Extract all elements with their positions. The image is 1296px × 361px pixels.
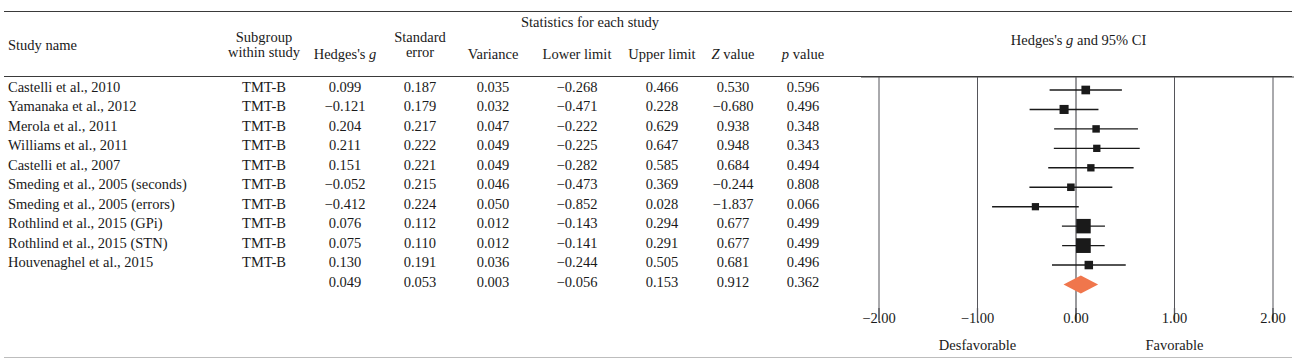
table-row-study-name: Rothlind et al., 2015 (STN) [8,235,168,252]
table-cell-hedges-g: 0.151 [329,157,362,174]
table-cell-hedges-g: 0.130 [329,254,362,271]
figure-bottom-rule [4,357,1292,358]
table-cell-hedges-g: −0.121 [325,98,366,115]
table-cell-upper-limit: 0.369 [646,176,679,193]
forest-plot-figure: Statistics for each study Hedges's g and… [0,0,1296,361]
effect-marker [1076,238,1091,253]
table-cell-z-value: −1.837 [713,196,754,213]
table-cell-variance: 0.036 [477,254,510,271]
table-cell-p-value: 0.596 [787,79,820,96]
table-cell-subgroup: TMT-B [242,137,286,154]
table-cell-variance: 0.049 [477,137,510,154]
table-cell-standard-err: 0.215 [404,176,437,193]
axis-tick-label: 0.00 [1063,310,1088,327]
table-cell-subgroup: TMT-B [242,196,286,213]
table-row-study-name: Williams et al., 2011 [8,137,128,154]
column-header-variance: Variance [468,47,519,62]
table-cell-z-value: 0.681 [717,254,750,271]
table-cell-variance: 0.047 [477,118,510,135]
table-cell-p-value: 0.494 [787,157,820,174]
table-cell-variance: 0.003 [477,274,510,291]
table-row-study-name: Smeding et al., 2005 (errors) [8,196,175,213]
table-cell-subgroup: TMT-B [242,98,286,115]
table-cell-upper-limit: 0.585 [646,157,679,174]
plot-title: Hedges's g and 95% CI [861,32,1296,49]
table-cell-standard-err: 0.217 [404,118,437,135]
table-row-study-name: Castelli et al., 2010 [8,79,120,96]
effect-marker [1076,219,1090,233]
table-cell-upper-limit: 0.629 [646,118,679,135]
effect-marker [1092,125,1099,132]
table-cell-variance: 0.046 [477,176,510,193]
axis-left-direction-label: Desfavorable [939,337,1016,354]
table-cell-subgroup: TMT-B [242,254,286,271]
table-cell-upper-limit: 0.291 [646,235,679,252]
table-row-study-name: Rothlind et al., 2015 (GPi) [8,215,163,232]
table-cell-p-value: 0.362 [787,274,820,291]
table-header-rule [4,76,1292,77]
table-cell-variance: 0.050 [477,196,510,213]
table-row-study-name: Castelli et al., 2007 [8,157,120,174]
table-cell-z-value: 0.684 [717,157,750,174]
table-cell-p-value: 0.499 [787,235,820,252]
table-cell-subgroup: TMT-B [242,215,286,232]
table-cell-z-value: 0.938 [717,118,750,135]
table-cell-lower-limit: −0.244 [557,254,598,271]
table-cell-standard-err: 0.053 [404,274,437,291]
table-cell-p-value: 0.066 [787,196,820,213]
effect-marker [1087,164,1094,171]
effect-marker [1093,145,1100,152]
table-cell-p-value: 0.499 [787,215,820,232]
table-cell-p-value: 0.343 [787,137,820,154]
table-cell-z-value: 0.677 [717,215,750,232]
table-cell-hedges-g: 0.076 [329,215,362,232]
table-cell-hedges-g: 0.049 [329,274,362,291]
table-cell-lower-limit: −0.268 [557,79,598,96]
table-cell-subgroup: TMT-B [242,118,286,135]
table-cell-lower-limit: −0.222 [557,118,598,135]
table-cell-standard-err: 0.191 [404,254,437,271]
table-cell-p-value: 0.496 [787,254,820,271]
table-row-study-name: Houvenaghel et al., 2015 [8,254,153,271]
table-cell-upper-limit: 0.228 [646,98,679,115]
table-cell-upper-limit: 0.028 [646,196,679,213]
table-cell-z-value: −0.680 [713,98,754,115]
effect-marker [1081,86,1090,95]
table-cell-standard-err: 0.224 [404,196,437,213]
table-cell-upper-limit: 0.466 [646,79,679,96]
axis-tick-label: 1.00 [1162,310,1187,327]
column-header-lower-limit: Lower limit [543,47,612,62]
table-cell-variance: 0.012 [477,215,510,232]
axis-tick-label: −2.00 [862,310,896,327]
table-cell-lower-limit: −0.056 [557,274,598,291]
table-cell-upper-limit: 0.505 [646,254,679,271]
table-cell-subgroup: TMT-B [242,176,286,193]
table-cell-z-value: 0.530 [717,79,750,96]
table-row-study-name: Merola et al., 2011 [8,118,117,135]
table-cell-standard-err: 0.221 [404,157,437,174]
table-cell-p-value: 0.348 [787,118,820,135]
effect-marker [1060,105,1069,114]
table-cell-standard-err: 0.179 [404,98,437,115]
column-header-z-value: Z value [711,47,754,62]
table-cell-hedges-g: 0.075 [329,235,362,252]
table-cell-lower-limit: −0.143 [557,215,598,232]
table-cell-standard-err: 0.187 [404,79,437,96]
table-cell-p-value: 0.496 [787,98,820,115]
effect-marker [1085,261,1093,269]
table-cell-standard-err: 0.222 [404,137,437,154]
summary-diamond [1064,276,1099,294]
plot-title-text: Hedges's g and 95% CI [1011,32,1147,48]
axis-tick-label: −1.00 [961,310,995,327]
table-cell-upper-limit: 0.153 [646,274,679,291]
axis-tick-label: 2.00 [1260,310,1285,327]
table-cell-z-value: −0.244 [713,176,754,193]
column-header-subgroup: Subgroupwithin study [228,30,300,60]
table-cell-variance: 0.049 [477,157,510,174]
table-cell-z-value: 0.912 [717,274,750,291]
table-cell-lower-limit: −0.473 [557,176,598,193]
column-header-p-value: p value [782,47,824,62]
column-header-study-name: Study name [8,38,77,53]
table-cell-variance: 0.012 [477,235,510,252]
table-cell-upper-limit: 0.294 [646,215,679,232]
